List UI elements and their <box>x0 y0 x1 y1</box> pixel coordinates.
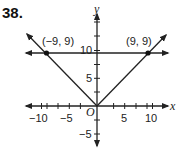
point-9-9 <box>145 50 150 55</box>
point-label-left: (−9, 9) <box>42 35 74 47</box>
point-label-right: (9, 9) <box>126 35 152 47</box>
y-tick-label-neg5: −5 <box>79 128 92 140</box>
x-tick-label-neg5: −5 <box>60 112 73 124</box>
y-tick-label-5: 5 <box>86 72 92 84</box>
x-axis-label: x <box>169 99 176 113</box>
origin-label: O <box>86 105 95 119</box>
x-tick-label-neg10: −10 <box>29 112 48 124</box>
y-tick-label-10: 10 <box>80 44 92 56</box>
x-tick-label-10: 10 <box>145 112 157 124</box>
y-axis-label: y <box>93 2 100 16</box>
x-tick-label-5: 5 <box>121 112 127 124</box>
graph: (−9, 9) (9, 9) −10 −5 5 10 10 5 −5 O x y <box>0 0 183 157</box>
point-neg9-9 <box>44 50 49 55</box>
